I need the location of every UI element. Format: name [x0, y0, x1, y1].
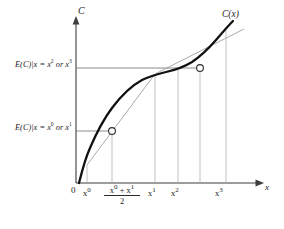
midpoint-denominator: 2 — [100, 197, 144, 207]
expected-high-exponent-2: 3 — [69, 58, 72, 64]
axis-label-horizontal: x — [265, 183, 269, 192]
tick-label-midpoint: x0 + x1 2 — [100, 184, 144, 207]
expected-value-label-low: E(C)|x = x0 or x1 — [15, 124, 72, 132]
tick-label-x2: x2 — [171, 186, 179, 198]
vertical-axis-arrowhead — [73, 16, 80, 25]
expected-high-prefix: E(C)|x = x — [15, 60, 51, 69]
marker-expected-high — [197, 65, 204, 72]
axis-label-vertical: C — [78, 6, 85, 16]
expected-high-middle: or x — [54, 60, 69, 69]
curve-label: C(x) — [222, 10, 239, 20]
cost-curve — [79, 21, 233, 183]
tick-label-x3: x3 — [215, 186, 223, 198]
midpoint-numerator: x0 + x1 — [100, 184, 144, 195]
expected-low-middle: or x — [54, 123, 69, 132]
chord-x0-x1 — [87, 74, 155, 165]
tick-x3-exponent: 3 — [219, 186, 223, 194]
tick-label-x0: x0 — [83, 186, 91, 198]
tick-x2-exponent: 2 — [175, 186, 179, 194]
origin-label: 0 — [71, 186, 76, 195]
expected-low-prefix: E(C)|x = x — [15, 123, 51, 132]
expected-value-label-high: E(C)|x = x2 or x3 — [15, 61, 72, 69]
marker-expected-low — [109, 128, 116, 135]
expected-low-exponent-2: 1 — [69, 121, 72, 127]
horizontal-axis-arrowhead — [256, 180, 265, 187]
tick-x1-exponent: 1 — [152, 186, 156, 194]
cost-curve-figure: C x C(x) 0 E(C)|x = x2 or x3 E(C)|x = x0… — [0, 0, 284, 229]
tick-label-x1: x1 — [148, 186, 156, 198]
midpoint-numerator-second-exponent: 1 — [131, 183, 135, 191]
tick-x0-exponent: 0 — [87, 186, 91, 194]
